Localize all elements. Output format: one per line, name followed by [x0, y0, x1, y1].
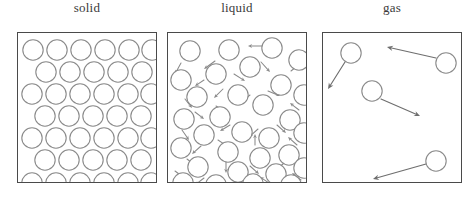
motion-arrow: [234, 74, 243, 80]
particle-circle: [142, 40, 157, 60]
liquid-particle-field: [168, 33, 307, 183]
motion-arrow: [216, 89, 223, 96]
particle-circle: [171, 70, 191, 90]
particle-circle: [35, 150, 55, 170]
particle-circle: [71, 40, 91, 60]
particle-circle: [83, 106, 103, 126]
panel-label-gas: gas: [322, 0, 462, 16]
panel-label-liquid: liquid: [167, 0, 307, 16]
particle-circle: [94, 84, 114, 104]
motion-arrow: [194, 146, 201, 152]
particle-circle: [95, 40, 115, 60]
motion-arrow: [197, 178, 204, 183]
motion-arrow: [197, 80, 204, 85]
particle-circle: [259, 128, 279, 148]
particle-circle: [362, 81, 382, 101]
particle-circle: [194, 125, 214, 145]
motion-arrow: [376, 164, 426, 178]
panel-label-solid: solid: [17, 0, 157, 16]
particle-circle: [59, 150, 79, 170]
particle-circle: [188, 157, 208, 177]
particle-circle: [22, 128, 42, 148]
particle-circle: [36, 62, 56, 82]
motion-arrow: [261, 62, 268, 70]
panel-gas: gas: [322, 0, 462, 197]
particle-circle: [131, 150, 151, 170]
particle-circle: [210, 107, 230, 127]
particle-circle: [46, 84, 66, 104]
panel-box-liquid: [167, 32, 307, 183]
particle-circle: [131, 106, 151, 126]
particle-circle: [341, 43, 361, 63]
particle-circle: [271, 75, 291, 95]
particle-circle: [107, 150, 127, 170]
particle-circle: [70, 128, 90, 148]
particle-circle: [253, 95, 273, 115]
motion-arrow: [390, 48, 436, 58]
particle-circle: [206, 175, 226, 183]
particle-circle: [228, 85, 248, 105]
panel-liquid: liquid: [167, 0, 307, 197]
particle-circle: [187, 87, 207, 107]
particle-circle: [84, 62, 104, 82]
particle-circle: [94, 173, 114, 183]
particle-circle: [289, 50, 307, 70]
particle-circle: [240, 57, 260, 77]
particle-circle: [250, 148, 270, 168]
gas-particle-field: [323, 33, 462, 183]
panel-box-solid: [17, 32, 157, 183]
particle-circle: [35, 106, 55, 126]
states-of-matter-figure: solid liquid gas: [0, 0, 474, 197]
particle-circle: [94, 128, 114, 148]
arrow-head: [328, 83, 333, 89]
particle-circle: [206, 64, 226, 84]
panel-solid: solid: [17, 0, 157, 197]
particle-circle: [70, 84, 90, 104]
particle-circle: [108, 62, 128, 82]
particle-circle: [118, 128, 138, 148]
solid-particle-field: [18, 33, 157, 183]
particle-circle: [118, 84, 138, 104]
particle-circle: [141, 173, 157, 183]
motion-arrow: [182, 130, 188, 138]
motion-arrow: [195, 112, 202, 117]
particle-circle: [294, 85, 307, 105]
motion-arrow: [330, 62, 345, 86]
particle-circle: [59, 106, 79, 126]
particle-circle: [174, 109, 194, 129]
particle-circle: [262, 38, 282, 58]
particle-circle: [232, 122, 252, 142]
particle-circle: [46, 173, 66, 183]
particle-circle: [141, 128, 157, 148]
particle-circle: [141, 84, 157, 104]
particle-circle: [171, 138, 191, 158]
particle-circle: [22, 84, 42, 104]
particle-circle: [426, 151, 446, 171]
particle-circle: [119, 40, 139, 60]
motion-arrow: [292, 105, 299, 110]
particle-circle: [219, 40, 239, 60]
particle-circle: [83, 150, 103, 170]
particle-circle: [180, 41, 200, 61]
particle-circle: [46, 128, 66, 148]
particle-circle: [107, 106, 127, 126]
panel-box-gas: [322, 32, 462, 183]
particle-circle: [70, 173, 90, 183]
particle-circle: [118, 173, 138, 183]
particle-circle: [60, 62, 80, 82]
particle-circle: [132, 62, 152, 82]
particle-circle: [22, 173, 42, 183]
particle-circle: [218, 142, 238, 162]
motion-arrow: [381, 99, 417, 115]
particle-circle: [47, 40, 67, 60]
particle-circle: [436, 53, 456, 73]
particle-circle: [23, 40, 43, 60]
